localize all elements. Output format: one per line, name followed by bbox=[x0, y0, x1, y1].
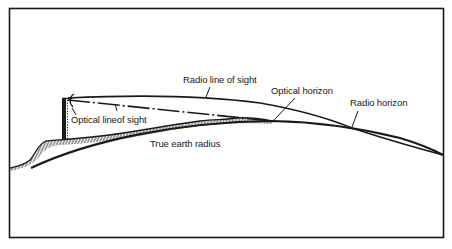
label-radio-line-of-sight: Radio line of sight bbox=[183, 75, 257, 85]
true-earth-radius-curve bbox=[31, 121, 443, 168]
line-of-sight-diagram bbox=[0, 0, 452, 249]
leader-radio-line-of-sight bbox=[206, 87, 210, 97]
terrain bbox=[10, 118, 272, 171]
label-optical-line-of-sight: Optical lineof sight bbox=[71, 115, 147, 125]
label-true-earth-radius: True earth radius bbox=[150, 139, 220, 149]
label-optical-horizon: Optical horizon bbox=[271, 86, 333, 96]
leader-radio-horizon bbox=[352, 111, 358, 127]
label-radio-horizon: Radio horizon bbox=[350, 98, 407, 108]
